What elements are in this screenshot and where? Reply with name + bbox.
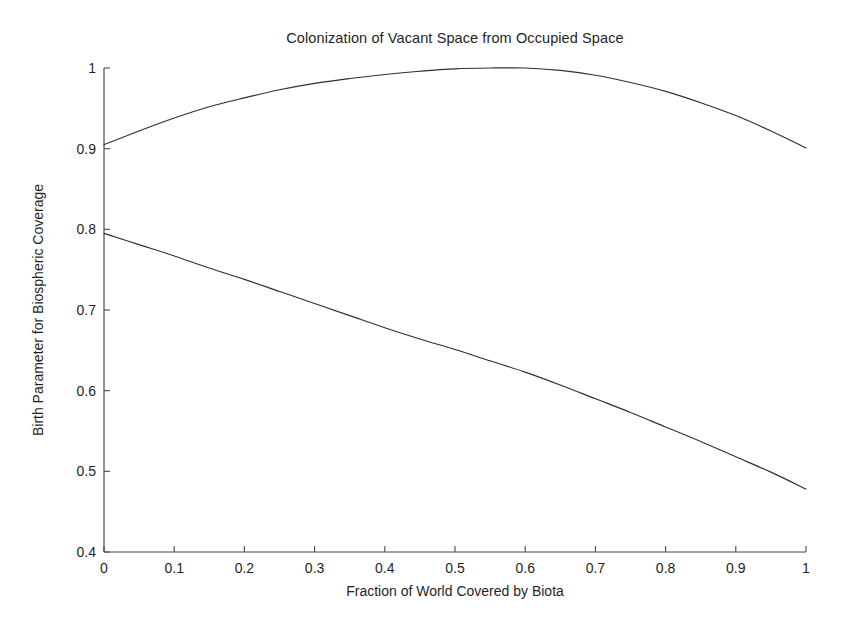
x-tick-label: 1: [781, 559, 831, 577]
figure-canvas: Colonization of Vacant Space from Occupi…: [0, 0, 843, 619]
x-tick-label: 0: [79, 559, 129, 577]
data-curves: [104, 68, 806, 489]
y-tick-label: 0.6: [36, 382, 96, 400]
axis-ticks: [104, 68, 806, 552]
y-tick-label: 1: [36, 59, 96, 77]
x-tick-label: 0.8: [641, 559, 691, 577]
x-tick-label: 0.9: [711, 559, 761, 577]
curve-lower-curve: [104, 233, 806, 489]
x-tick-label: 0.4: [360, 559, 410, 577]
x-tick-label: 0.7: [570, 559, 620, 577]
y-tick-label: 0.7: [36, 301, 96, 319]
x-tick-label: 0.6: [500, 559, 550, 577]
y-tick-label: 0.8: [36, 220, 96, 238]
x-tick-label: 0.1: [149, 559, 199, 577]
x-tick-label: 0.2: [219, 559, 269, 577]
y-tick-label: 0.9: [36, 140, 96, 158]
y-tick-label: 0.5: [36, 462, 96, 480]
axes-spines: [104, 68, 806, 552]
x-tick-label: 0.5: [430, 559, 480, 577]
x-tick-label: 0.3: [290, 559, 340, 577]
plot-area: [0, 0, 843, 619]
curve-upper-curve: [104, 68, 806, 148]
